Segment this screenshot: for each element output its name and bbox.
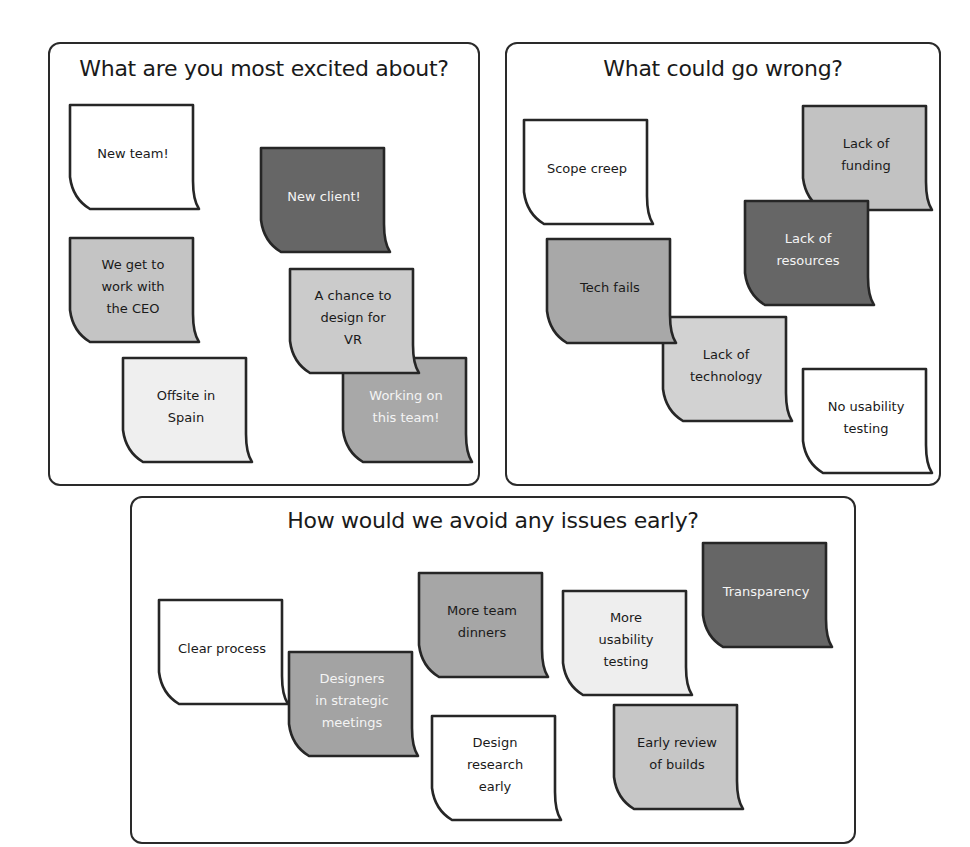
sticky-note[interactable]: We get to work with the CEO	[68, 236, 200, 345]
sticky-note[interactable]: Lack of funding	[801, 104, 933, 213]
sticky-note[interactable]: Early review of builds	[612, 703, 744, 812]
sticky-note-text: Lack of resources	[757, 209, 859, 290]
sticky-note[interactable]: More usability testing	[561, 589, 693, 698]
sticky-note-text: Offsite in Spain	[135, 366, 237, 447]
sticky-note-text: Working on this team!	[355, 366, 457, 447]
panel-title: How would we avoid any issues early?	[132, 508, 854, 533]
sticky-note[interactable]: Design research early	[430, 714, 562, 823]
sticky-note[interactable]: Scope creep	[522, 118, 654, 227]
panel-title: What could go wrong?	[507, 56, 939, 81]
sticky-note-text: Designers in strategic meetings	[301, 660, 403, 741]
sticky-note[interactable]: New team!	[68, 103, 200, 212]
sticky-note-text: Lack of funding	[815, 114, 917, 195]
sticky-note-text: We get to work with the CEO	[82, 246, 184, 327]
sticky-note[interactable]: Lack of resources	[743, 199, 875, 308]
sticky-note[interactable]: Clear process	[157, 598, 289, 707]
sticky-note[interactable]: More team dinners	[417, 571, 549, 680]
sticky-note-text: More team dinners	[431, 581, 533, 662]
sticky-note-text: Design research early	[444, 724, 546, 805]
sticky-note[interactable]: New client!	[259, 146, 391, 255]
sticky-note[interactable]: Transparency	[701, 541, 833, 650]
board-panel-risks: What could go wrong? Scope creep Lack of…	[505, 42, 941, 486]
sticky-note-text: New team!	[82, 113, 184, 194]
board-panel-excited: What are you most excited about? New tea…	[48, 42, 480, 486]
sticky-note-text: Early review of builds	[626, 713, 728, 794]
board-panel-prevention: How would we avoid any issues early? Cle…	[130, 496, 856, 844]
sticky-note[interactable]: Offsite in Spain	[121, 356, 253, 465]
sticky-note-text: Scope creep	[536, 128, 638, 209]
sticky-note-text: New client!	[273, 156, 375, 237]
sticky-note[interactable]: No usability testing	[801, 367, 933, 476]
sticky-note-text: A chance to design for VR	[302, 277, 404, 358]
sticky-note-text: No usability testing	[815, 377, 917, 458]
sticky-note-text: Tech fails	[559, 247, 661, 328]
sticky-note-text: More usability testing	[575, 599, 677, 680]
sticky-note[interactable]: Tech fails	[545, 237, 677, 346]
sticky-note[interactable]: A chance to design for VR	[288, 267, 420, 376]
sticky-note-text: Transparency	[715, 551, 817, 632]
sticky-note[interactable]: Lack of technology	[661, 315, 793, 424]
sticky-note-text: Lack of technology	[675, 325, 777, 406]
panel-title: What are you most excited about?	[50, 56, 478, 81]
sticky-note-text: Clear process	[171, 608, 273, 689]
sticky-note[interactable]: Designers in strategic meetings	[287, 650, 419, 759]
